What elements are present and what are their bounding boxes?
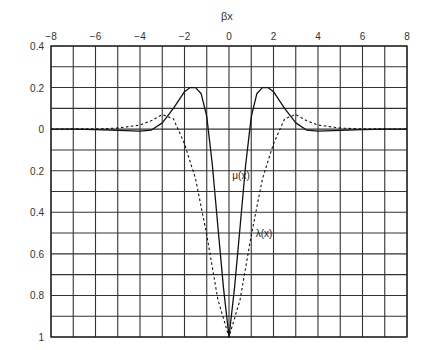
x-tick-label: 6 (360, 31, 366, 42)
x-axis-label: βx (221, 10, 233, 22)
x-tick-label: −4 (134, 31, 146, 42)
y-tick-label: 0.4 (30, 207, 44, 218)
y-tick-label: 0.6 (30, 249, 44, 260)
x-tick-label: −2 (179, 31, 191, 42)
x-tick-label: 8 (404, 31, 410, 42)
x-axis-ticks: −8−6−4−202468 (45, 31, 410, 42)
y-axis-ticks: 0.40.200.20.40.60.81 (30, 41, 44, 343)
y-tick-label: 0.2 (30, 166, 44, 177)
grid-lines (51, 46, 407, 337)
y-tick-label: 0 (38, 124, 44, 135)
x-tick-label: 2 (271, 31, 277, 42)
x-tick-label: −6 (90, 31, 102, 42)
y-tick-label: 0.8 (30, 290, 44, 301)
chart: −8−6−4−202468 0.40.200.20.40.60.81 βx μ(… (0, 0, 430, 350)
y-tick-label: 0.2 (30, 83, 44, 94)
y-tick-label: 0.4 (30, 41, 44, 52)
curve-labels: μ(x)λ(x) (232, 170, 272, 239)
mu-label: μ(x) (232, 170, 249, 181)
x-tick-label: −8 (45, 31, 57, 42)
lambda-label: λ(x) (256, 228, 273, 239)
x-tick-label: 0 (226, 31, 232, 42)
y-tick-label: 1 (38, 332, 44, 343)
x-tick-label: 4 (315, 31, 321, 42)
